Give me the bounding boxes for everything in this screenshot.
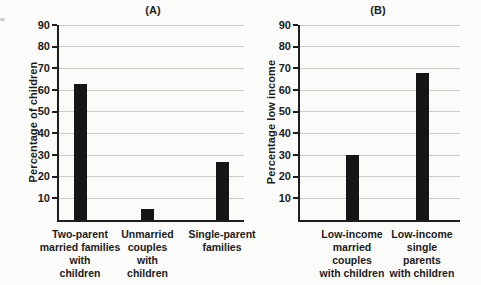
category-label-line: single <box>390 241 455 254</box>
category-label-line: with <box>121 254 174 267</box>
gridline <box>300 68 460 69</box>
y-axis-tick <box>52 46 57 48</box>
y-tick-label: 90 <box>258 20 291 31</box>
bar-chart-figure: (A) Percentage of children 1020304050607… <box>0 0 481 285</box>
category-label-line: children <box>40 267 121 280</box>
gridline <box>59 111 244 112</box>
y-tick-label: 60 <box>17 85 50 96</box>
gridline <box>59 133 244 134</box>
y-tick-label: 50 <box>258 106 291 117</box>
category-label-line: parents <box>390 254 455 267</box>
y-tick-label: 30 <box>258 150 291 161</box>
y-axis-tick <box>52 154 57 156</box>
panel-b-plot: 102030405060708090Low-incomemarriedcoupl… <box>298 25 460 222</box>
y-axis-tick <box>52 132 57 134</box>
y-tick-label: 50 <box>17 106 50 117</box>
gridline <box>300 111 460 112</box>
y-axis-tick <box>293 154 298 156</box>
bar <box>416 73 429 220</box>
y-axis-tick <box>52 176 57 178</box>
gridline <box>300 176 460 177</box>
y-tick-label: 80 <box>17 41 50 52</box>
gridline <box>300 133 460 134</box>
category-label-line: Unmarried <box>121 228 174 241</box>
category-label-line: couples <box>121 241 174 254</box>
category-label: Single-parentfamilies <box>188 228 255 254</box>
bar <box>74 84 87 221</box>
category-label-line: Single-parent <box>188 228 255 241</box>
gridline <box>59 155 244 156</box>
category-label: Unmarriedcoupleswithchildren <box>121 228 174 280</box>
y-tick-label: 20 <box>17 171 50 182</box>
category-label: Low-incomemarriedcoupleswith children <box>320 228 385 280</box>
gridline <box>59 25 244 26</box>
category-label-line: with <box>40 254 121 267</box>
category-label: Two-parentmarried familieswithchildren <box>40 228 121 280</box>
y-tick-label: 70 <box>258 63 291 74</box>
panel-a-y-axis-label: Percentage of children <box>27 62 39 183</box>
category-label: Low-incomesingleparentswith children <box>390 228 455 280</box>
y-tick-label: 40 <box>17 128 50 139</box>
category-label-line: Two-parent <box>40 228 121 241</box>
y-tick-label: 60 <box>258 85 291 96</box>
y-tick-label: 70 <box>17 63 50 74</box>
y-axis-tick <box>293 24 298 26</box>
y-axis-tick <box>52 111 57 113</box>
bar <box>346 155 359 220</box>
scan-artifact <box>0 18 5 21</box>
bar <box>141 209 154 220</box>
y-axis-tick <box>293 89 298 91</box>
y-tick-label: 20 <box>258 171 291 182</box>
y-tick-label: 10 <box>17 193 50 204</box>
panel-a-title: (A) <box>145 4 160 16</box>
category-label-line: couples <box>320 254 385 267</box>
panel-a-plot: 102030405060708090Two-parentmarried fami… <box>57 25 244 222</box>
category-label-line: Low-income <box>320 228 385 241</box>
category-label-line: with children <box>320 267 385 280</box>
y-axis-tick <box>293 176 298 178</box>
gridline <box>300 46 460 47</box>
bar <box>216 162 229 221</box>
y-axis-tick <box>52 67 57 69</box>
gridline <box>300 198 460 199</box>
panel-b-title: (B) <box>370 4 385 16</box>
category-label-line: with children <box>390 267 455 280</box>
y-axis-tick <box>52 89 57 91</box>
category-label-line: children <box>121 267 174 280</box>
y-tick-label: 30 <box>17 150 50 161</box>
y-axis-tick <box>293 132 298 134</box>
gridline <box>59 68 244 69</box>
category-label-line: Low-income <box>390 228 455 241</box>
y-tick-label: 40 <box>258 128 291 139</box>
gridline <box>59 46 244 47</box>
panel-b-y-axis-label: Percentage low income <box>265 60 277 184</box>
y-axis-tick <box>293 46 298 48</box>
y-tick-label: 80 <box>258 41 291 52</box>
category-label-line: married <box>320 241 385 254</box>
y-axis-tick <box>293 67 298 69</box>
y-axis-tick <box>52 197 57 199</box>
y-tick-label: 10 <box>258 193 291 204</box>
y-axis-tick <box>52 24 57 26</box>
category-label-line: married families <box>40 241 121 254</box>
y-axis-tick <box>293 111 298 113</box>
y-tick-label: 90 <box>17 20 50 31</box>
y-axis-tick <box>293 197 298 199</box>
category-label-line: families <box>188 241 255 254</box>
gridline <box>300 25 460 26</box>
gridline <box>59 90 244 91</box>
gridline <box>300 90 460 91</box>
gridline <box>300 155 460 156</box>
